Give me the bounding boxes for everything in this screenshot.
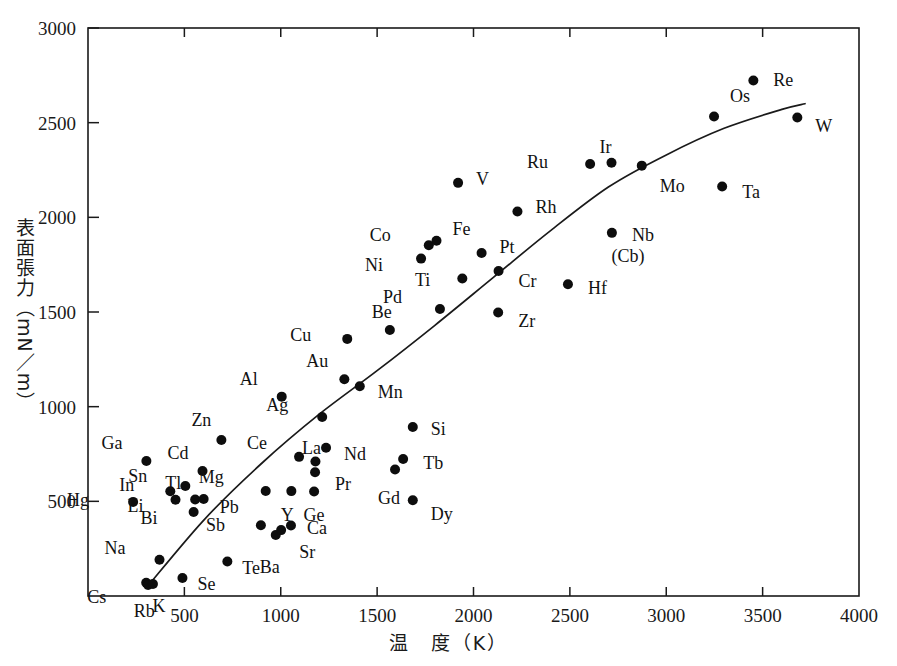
plot-canvas: 5001000150020002500300035004000500100015… xyxy=(0,0,897,666)
x-axis-title: 温 度（K） xyxy=(0,628,897,655)
point-label-co: Co xyxy=(370,225,391,245)
point-label-dy: Dy xyxy=(431,504,453,524)
surface-tension-scatter-figure: 5001000150020002500300035004000500100015… xyxy=(0,0,897,666)
point-label-ba: Ba xyxy=(260,557,280,577)
point-label-si: Si xyxy=(431,419,446,439)
data-point-se xyxy=(177,573,187,583)
data-point-mg xyxy=(261,486,271,496)
data-point-na xyxy=(155,555,165,565)
data-point-ag xyxy=(317,412,327,422)
point-label-gd: Gd xyxy=(378,488,400,508)
data-point-os xyxy=(709,111,719,121)
svg-text:1000: 1000 xyxy=(262,605,300,626)
point-label-ag: Ag xyxy=(266,395,288,415)
point-label-al: Al xyxy=(240,369,258,389)
point-label-v: V xyxy=(476,169,489,189)
data-point-labels: CsRbKNaSeTeHgLiInGaSnTlPbCdZnBiMgSbBaSrC… xyxy=(67,70,832,621)
point-label-bi: Bi xyxy=(141,508,158,528)
svg-text:3500: 3500 xyxy=(744,605,782,626)
point-label-tl: Tl xyxy=(165,473,181,493)
svg-text:1500: 1500 xyxy=(358,605,396,626)
data-point-mo xyxy=(637,161,647,171)
y-axis-title-text: 表面張力（mN／m） xyxy=(12,218,39,412)
point-label-ir: Ir xyxy=(600,137,612,157)
data-point-tb xyxy=(398,454,408,464)
point-label-ce: Ce xyxy=(247,433,267,453)
point-label-k: K xyxy=(152,596,165,616)
svg-text:2000: 2000 xyxy=(38,207,76,228)
point-label-mg: Mg xyxy=(199,467,224,487)
axis-tick-labels: 5001000150020002500300035004000500100015… xyxy=(38,18,878,626)
data-point-rh xyxy=(512,206,522,216)
axes xyxy=(88,28,859,596)
point-label-ga: Ga xyxy=(101,433,122,453)
data-point-pr xyxy=(310,467,320,477)
point-label-nd: Nd xyxy=(344,444,366,464)
point-label-mo: Mo xyxy=(660,176,685,196)
point-label-au: Au xyxy=(306,351,328,371)
data-point-hf xyxy=(563,279,573,289)
data-point-v xyxy=(453,178,463,188)
svg-text:2000: 2000 xyxy=(455,605,493,626)
data-point-zn xyxy=(216,435,226,445)
data-point-ge xyxy=(309,486,319,496)
data-point-y xyxy=(286,486,296,496)
point-label-pb: Pb xyxy=(220,497,239,517)
svg-text:4000: 4000 xyxy=(840,605,878,626)
point-label-sr: Sr xyxy=(299,542,315,562)
data-point-pt xyxy=(477,248,487,258)
point-label-cr: Cr xyxy=(519,271,537,291)
point-label-mn: Mn xyxy=(378,382,403,402)
point-label-ta: Ta xyxy=(742,182,760,202)
point-label-pd: Pd xyxy=(383,287,402,307)
data-point-gd xyxy=(390,465,400,475)
data-point-ru xyxy=(585,159,595,169)
point-label-hg: Hg xyxy=(67,490,89,510)
x-axis-title-text: 温 度（K） xyxy=(389,632,508,654)
data-point-pb xyxy=(199,494,209,504)
point-label-sn: Sn xyxy=(128,466,147,486)
point-label-zn: Zn xyxy=(191,410,211,430)
data-point-fe xyxy=(431,236,441,246)
point-label-pr: Pr xyxy=(335,474,351,494)
point-label-hf: Hf xyxy=(588,278,607,298)
data-point-ti xyxy=(457,273,467,283)
data-point-sn xyxy=(180,481,190,491)
data-point-bi xyxy=(189,507,199,517)
y-axis-title: 表面張力（mN／m） xyxy=(8,150,42,480)
data-point-ta xyxy=(717,181,727,191)
svg-text:500: 500 xyxy=(170,605,199,626)
point-label-cs: Cs xyxy=(87,587,106,607)
data-point-au xyxy=(339,374,349,384)
data-point-dy xyxy=(408,495,418,505)
svg-text:3000: 3000 xyxy=(647,605,685,626)
point-label-zr: Zr xyxy=(518,311,535,331)
svg-text:3000: 3000 xyxy=(38,18,76,39)
point-label-cb-alias: (Cb) xyxy=(612,246,645,267)
data-point-li xyxy=(171,495,181,505)
point-label-ru: Ru xyxy=(527,152,548,172)
data-point-cr xyxy=(494,266,504,276)
data-point-si xyxy=(408,422,418,432)
point-label-pt: Pt xyxy=(500,237,515,257)
point-label-rh: Rh xyxy=(535,197,556,217)
point-label-os: Os xyxy=(730,86,750,106)
svg-text:1500: 1500 xyxy=(38,302,76,323)
data-point-sr xyxy=(276,525,286,535)
point-label-ni: Ni xyxy=(365,255,383,275)
point-label-tb: Tb xyxy=(423,453,443,473)
point-label-te: Te xyxy=(242,558,260,578)
data-point-ni xyxy=(416,254,426,264)
data-point-cu xyxy=(342,334,352,344)
data-point-mn xyxy=(355,381,365,391)
data-point-sb xyxy=(256,520,266,530)
point-label-sb: Sb xyxy=(206,515,225,535)
point-label-se: Se xyxy=(197,574,215,594)
point-label-ti: Ti xyxy=(415,270,430,290)
data-point-zr xyxy=(493,308,503,318)
svg-text:2500: 2500 xyxy=(38,113,76,134)
data-point-re xyxy=(748,75,758,85)
svg-text:1000: 1000 xyxy=(38,397,76,418)
point-label-cd: Cd xyxy=(167,443,188,463)
data-point-ga xyxy=(141,456,151,466)
